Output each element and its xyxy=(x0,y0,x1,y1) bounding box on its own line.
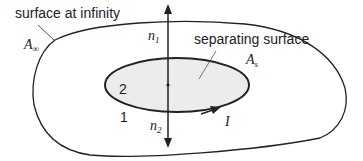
area-separating-label: As xyxy=(245,52,259,69)
diagram-canvas: surface at infinity separating surface 2… xyxy=(0,0,363,161)
area-infinity-leader xyxy=(38,25,54,40)
area-infinity-label: A∞ xyxy=(23,37,39,54)
region-1-label: 1 xyxy=(120,109,128,125)
region-2-label: 2 xyxy=(119,81,127,97)
normal-n2-label: n2 xyxy=(150,118,162,135)
center-point xyxy=(166,83,169,86)
normal-down-arrowhead-icon xyxy=(164,138,172,148)
outer-surface-label: surface at infinity xyxy=(15,5,120,21)
current-label: I xyxy=(224,114,231,129)
normal-n1-label: n1 xyxy=(148,28,160,45)
current-arrowhead-icon xyxy=(210,106,221,114)
normal-up-arrowhead-icon xyxy=(164,4,172,14)
separating-surface-label: separating surface xyxy=(194,31,309,47)
